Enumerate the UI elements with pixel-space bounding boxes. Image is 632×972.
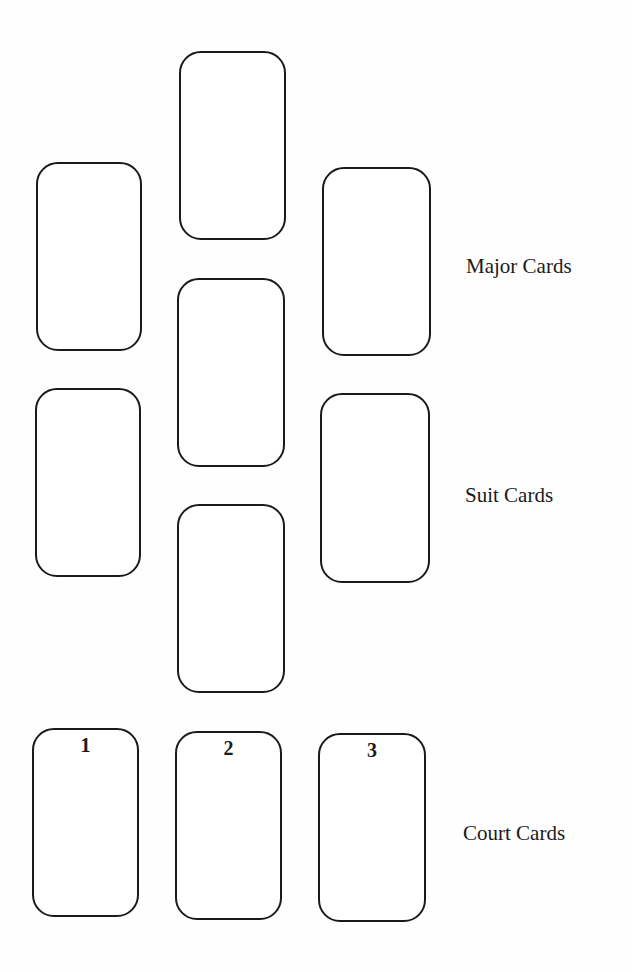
card-suit-right (320, 393, 430, 583)
card-number: 1 (34, 734, 137, 757)
card-major-left (36, 162, 142, 351)
card-number: 2 (177, 737, 280, 760)
card-center-middle (177, 278, 285, 467)
card-court-1: 1 (32, 728, 139, 917)
card-major-top-center (179, 51, 286, 240)
label-major-cards: Major Cards (466, 254, 572, 279)
card-suit-left (35, 388, 141, 577)
tarot-spread-diagram: 1 2 3 Major Cards Suit Cards Court Cards (0, 0, 632, 972)
card-court-2: 2 (175, 731, 282, 920)
label-court-cards: Court Cards (463, 821, 565, 846)
card-suit-center-bottom (177, 504, 285, 693)
card-court-3: 3 (318, 733, 426, 922)
label-suit-cards: Suit Cards (465, 483, 553, 508)
card-number: 3 (320, 739, 424, 762)
card-major-right (322, 167, 431, 356)
